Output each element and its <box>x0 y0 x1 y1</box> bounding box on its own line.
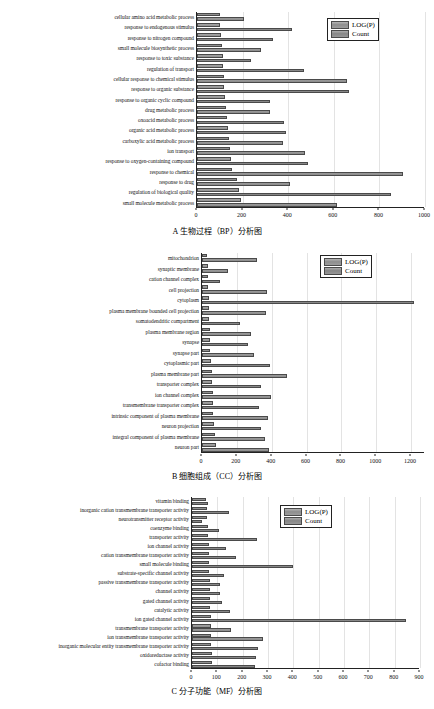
chart-a-category-labels: cellular amino acid metabolic processres… <box>0 12 196 208</box>
chart-a-plot-area: cellular amino acid metabolic processres… <box>0 0 434 205</box>
gridline <box>425 12 426 207</box>
bar-row <box>197 43 424 53</box>
bar-logp <box>197 188 239 192</box>
bar-logp <box>202 254 207 258</box>
x-tick-label: 800 <box>389 674 398 680</box>
bar-row <box>202 400 424 411</box>
legend-item-count: Count <box>331 30 375 38</box>
bar-count <box>202 290 267 294</box>
category-label: cofactor binding <box>0 660 191 669</box>
bar-row <box>197 53 424 63</box>
bar-row <box>197 136 424 146</box>
bar-logp <box>197 44 222 48</box>
category-label: ion transmembrane transporter activity <box>0 633 191 642</box>
x-tickmark <box>340 454 341 456</box>
bar-logp <box>197 95 225 99</box>
legend-swatch-count-icon <box>284 517 302 525</box>
x-tickmark <box>270 454 271 456</box>
bar-logp <box>192 606 210 609</box>
bar-row <box>202 264 424 275</box>
bar-count <box>192 610 230 613</box>
bar-row <box>197 84 424 94</box>
chart-c-plot-area: vitamin bindinginorganic cation transmem… <box>0 492 434 677</box>
bar-row <box>202 285 424 296</box>
bar-row <box>202 421 424 432</box>
chart-b-caption: B 细胞组成（CC）分析图 <box>0 473 434 481</box>
category-label: oxidoreductase activity <box>0 651 191 660</box>
bar-logp <box>202 391 213 395</box>
bar-count <box>197 172 403 176</box>
bar-row <box>197 12 424 22</box>
bar-count <box>192 502 208 505</box>
category-label: neurotransmitter receptor activity <box>0 515 191 524</box>
x-tickmark <box>267 670 268 672</box>
category-label: regulation of biological quality <box>0 187 196 197</box>
legend-label: Count <box>345 268 362 275</box>
category-label: somatodendritic compartment <box>0 316 201 327</box>
gridline <box>420 497 421 668</box>
bar-count <box>197 141 283 145</box>
chart-c-plot: LOG(P)Count <box>191 497 419 669</box>
bar-row <box>202 295 424 306</box>
x-tickmark <box>410 454 411 456</box>
bar-logp <box>197 168 232 172</box>
bar-logp <box>192 516 207 519</box>
x-tickmark <box>191 670 192 672</box>
category-label: plasma membrane bounded cell projection <box>0 306 201 317</box>
bar-count <box>202 269 228 273</box>
bar-count <box>192 574 224 577</box>
bar-logp <box>197 116 227 120</box>
x-tick-label: 1000 <box>418 212 430 218</box>
x-tickmark <box>343 670 344 672</box>
x-tick-label: 200 <box>231 458 240 464</box>
category-label: plasma membrane part <box>0 369 201 380</box>
panel-b-cc: mitochondrionsynaptic membranecation cha… <box>0 245 434 455</box>
bar-count <box>192 647 258 650</box>
bar-count <box>197 100 270 104</box>
bar-count <box>192 665 255 668</box>
bar-count <box>197 151 305 155</box>
chart-b-xaxis: 020040060080010001200 <box>201 456 424 466</box>
bar-row <box>202 379 424 390</box>
category-label: small molecule binding <box>0 560 191 569</box>
category-label: carboxylic acid metabolic process <box>0 136 196 146</box>
category-label: ion channel activity <box>0 542 191 551</box>
bar-row <box>202 253 424 264</box>
x-tickmark <box>424 208 425 210</box>
bar-count <box>192 538 257 541</box>
category-label: cation channel complex <box>0 274 201 285</box>
bar-count <box>202 416 268 420</box>
category-label: small molecule metabolic process <box>0 198 196 208</box>
category-label: transporter activity <box>0 533 191 542</box>
legend-item-count: Count <box>284 517 328 525</box>
x-tickmark <box>305 454 306 456</box>
bar-logp <box>197 64 223 68</box>
bar-logp <box>192 525 208 528</box>
bar-logp <box>202 296 209 300</box>
bar-count <box>192 592 220 595</box>
bar-logp <box>202 359 211 363</box>
bar-logp <box>197 13 220 17</box>
figure-page: cellular amino acid metabolic processres… <box>0 0 434 709</box>
category-label: intrinsic component of plasma membrane <box>0 411 201 422</box>
chart-legend: LOG(P)Count <box>327 18 379 41</box>
bar-row <box>202 316 424 327</box>
bar-count <box>197 69 304 73</box>
legend-item-count: Count <box>324 267 368 275</box>
legend-swatch-logp-icon <box>331 21 349 29</box>
bar-count <box>202 448 269 452</box>
bar-logp <box>197 147 230 151</box>
bar-logp <box>192 507 207 510</box>
bar-row <box>202 358 424 369</box>
x-tickmark <box>368 670 369 672</box>
x-tickmark <box>332 208 333 210</box>
bar-logp <box>192 561 209 564</box>
bar-row <box>192 651 419 660</box>
category-label: neuron part <box>0 442 201 453</box>
bar-row <box>202 390 424 401</box>
legend-swatch-count-icon <box>331 30 349 38</box>
category-label: organic acid metabolic process <box>0 125 196 135</box>
category-label: cellular amino acid metabolic process <box>0 12 196 22</box>
x-tick-label: 900 <box>415 674 424 680</box>
x-tick-label: 400 <box>283 212 292 218</box>
